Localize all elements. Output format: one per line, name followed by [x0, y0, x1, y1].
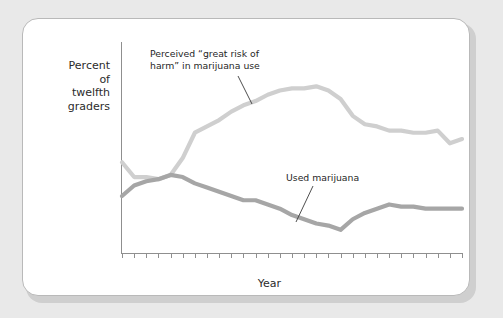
x-tick-1984 — [231, 253, 232, 258]
x-tick-2003 — [462, 253, 463, 258]
x-tick-1998 — [401, 253, 402, 258]
y-axis-label: Percent of twelfth graders — [38, 59, 110, 113]
x-tick-1999 — [413, 253, 414, 258]
y-axis-label-line-1: Percent — [38, 59, 110, 73]
x-tick-1979 — [171, 253, 172, 258]
x-tick-1990 — [304, 253, 305, 258]
x-tick-1988 — [280, 253, 281, 258]
y-axis-label-line-3: twelfth — [38, 86, 110, 100]
x-tick-1997 — [389, 253, 390, 258]
risk-annotation-text: Perceived “great risk of harm” in mariju… — [150, 48, 290, 71]
x-tick-1989 — [292, 253, 293, 258]
x-tick-1985 — [243, 253, 244, 258]
used-annotation-text: Used marijuana — [286, 172, 386, 184]
x-tick-1987 — [268, 253, 269, 258]
x-axis-label: Year — [0, 277, 503, 290]
x-tick-1975 — [122, 253, 123, 258]
x-tick-1980 — [183, 253, 184, 258]
x-tick-1983 — [219, 253, 220, 258]
y-axis-label-line-2: of — [38, 73, 110, 87]
x-tick-2000 — [426, 253, 427, 258]
x-tick-2002 — [450, 253, 451, 258]
x-tick-1992 — [328, 253, 329, 258]
x-tick-1978 — [158, 253, 159, 258]
x-axis-label-text: Year — [258, 277, 281, 290]
x-tick-1981 — [195, 253, 196, 258]
x-tick-2001 — [438, 253, 439, 258]
x-tick-1976 — [134, 253, 135, 258]
x-tick-1977 — [146, 253, 147, 258]
x-tick-1995 — [365, 253, 366, 258]
x-tick-1994 — [353, 253, 354, 258]
x-tick-1993 — [341, 253, 342, 258]
y-axis-line — [121, 42, 122, 254]
x-tick-1991 — [316, 253, 317, 258]
x-tick-1982 — [207, 253, 208, 258]
x-tick-1996 — [377, 253, 378, 258]
x-tick-1986 — [256, 253, 257, 258]
chart-figure: Percent of twelfth graders 0102030405060… — [0, 0, 503, 318]
y-axis-label-line-4: graders — [38, 100, 110, 114]
